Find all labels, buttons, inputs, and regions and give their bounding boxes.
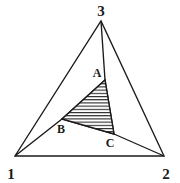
geometry-figure: 3 1 2 A B C (0, 0, 180, 183)
point-label-c: C (106, 136, 115, 150)
point-label-a: A (93, 66, 102, 80)
figure-canvas: 3 1 2 A B C (0, 0, 180, 183)
vertex-label-3: 3 (97, 3, 105, 19)
vertex-label-1: 1 (7, 166, 15, 182)
outer-triangle-outline (15, 21, 164, 156)
point-label-b: B (57, 122, 65, 136)
vertex-label-2: 2 (162, 166, 170, 182)
